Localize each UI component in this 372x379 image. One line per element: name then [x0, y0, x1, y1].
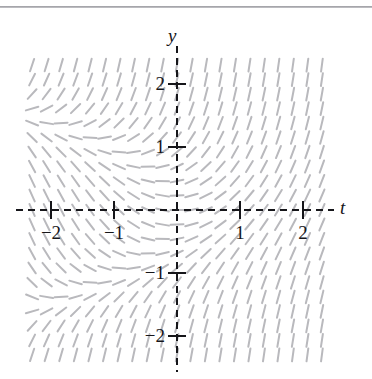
slope-segment — [87, 320, 93, 332]
slope-segment — [114, 292, 123, 301]
slope-segment — [306, 102, 309, 115]
slope-segment — [321, 59, 323, 72]
slope-segment — [88, 334, 92, 346]
slope-segment — [262, 102, 265, 115]
slope-segment — [86, 190, 94, 200]
slope-segment — [56, 105, 66, 113]
slope-segment — [156, 194, 169, 196]
slope-segment — [30, 59, 34, 71]
slope-segment — [43, 161, 50, 172]
slope-segment — [188, 132, 195, 143]
slope-segment — [290, 175, 296, 187]
slope-segment — [132, 59, 135, 72]
slope-segment — [59, 74, 64, 86]
slope-segment — [306, 320, 308, 333]
slope-segment — [263, 348, 265, 361]
slope-segment — [205, 349, 207, 362]
slope-segment — [262, 131, 267, 143]
slope-segment — [292, 59, 294, 72]
slope-segment — [234, 59, 236, 72]
slope-segment — [43, 321, 51, 331]
slope-segment — [28, 321, 37, 331]
slope-segment — [204, 320, 207, 333]
slope-segment — [84, 282, 97, 283]
slope-segment — [276, 146, 281, 158]
slope-segment — [103, 59, 106, 72]
slope-segment — [291, 102, 294, 115]
slope-segment — [55, 279, 67, 285]
slope-segment — [55, 297, 68, 298]
slope-segment — [41, 308, 53, 314]
slope-segment — [73, 74, 78, 86]
slope-segment — [156, 165, 169, 168]
slope-segment — [291, 276, 295, 288]
slope-segment — [205, 334, 208, 347]
slope-segment — [29, 190, 34, 202]
slope-segment — [290, 248, 295, 260]
slope-segment — [263, 59, 265, 72]
slope-segment — [246, 248, 253, 259]
slope-segment — [44, 74, 49, 86]
slope-segment — [231, 248, 239, 259]
slope-segment — [205, 59, 207, 72]
slope-segment — [219, 334, 222, 347]
slope-segment — [247, 262, 253, 274]
slope-segment — [103, 73, 107, 85]
slope-segment — [185, 223, 198, 227]
slope-segment — [147, 59, 150, 72]
slope-segment — [305, 146, 309, 158]
slope-segment — [160, 305, 165, 317]
slope-segment — [56, 263, 65, 272]
slope-segment — [84, 294, 96, 300]
slope-segment — [219, 102, 223, 114]
slope-segment — [245, 191, 253, 201]
slope-segment — [190, 59, 192, 72]
slope-segment — [320, 160, 324, 172]
slope-segment — [306, 276, 310, 288]
slope-segment — [305, 262, 309, 274]
slope-segment — [291, 131, 295, 143]
slope-segment — [233, 320, 236, 333]
slope-segment — [275, 190, 282, 201]
slope-segment — [248, 102, 251, 115]
slope-segment — [147, 349, 150, 362]
slope-segment — [113, 251, 125, 256]
slope-segment — [29, 248, 35, 259]
slope-segment — [248, 320, 251, 333]
slope-segment — [26, 295, 38, 300]
slope-segment — [159, 291, 166, 302]
slope-segment — [27, 278, 36, 287]
slope-segment — [248, 73, 250, 86]
slope-segment — [263, 73, 265, 86]
slope-segment — [26, 310, 38, 314]
slope-segment — [29, 74, 35, 86]
slope-segment — [276, 131, 280, 143]
slope-segment — [320, 175, 325, 187]
slope-segment — [215, 192, 225, 200]
slope-segment — [247, 276, 252, 288]
slope-segment — [41, 134, 51, 142]
slope-segment — [201, 177, 212, 184]
slope-segment — [114, 191, 124, 200]
slope-segment — [277, 305, 280, 318]
slope-segment — [307, 59, 309, 72]
slope-segment — [321, 73, 323, 86]
slope-segment — [218, 277, 224, 289]
slope-segment — [99, 119, 109, 127]
slope-segment — [234, 334, 236, 347]
slope-segment — [58, 320, 65, 331]
slope-segment — [71, 249, 80, 259]
x-axis-label: t — [340, 198, 345, 217]
slope-segment — [26, 121, 38, 126]
slope-segment — [320, 247, 324, 259]
slope-segment — [292, 334, 294, 347]
slope-segment — [246, 161, 253, 172]
slope-segment — [101, 306, 108, 317]
slope-segment — [71, 307, 80, 316]
slope-segment — [58, 190, 64, 201]
slope-segment — [292, 320, 294, 333]
slope-segment — [189, 117, 195, 129]
slope-segment — [277, 73, 279, 86]
slope-segment — [118, 349, 121, 362]
slope-segment — [72, 190, 79, 201]
